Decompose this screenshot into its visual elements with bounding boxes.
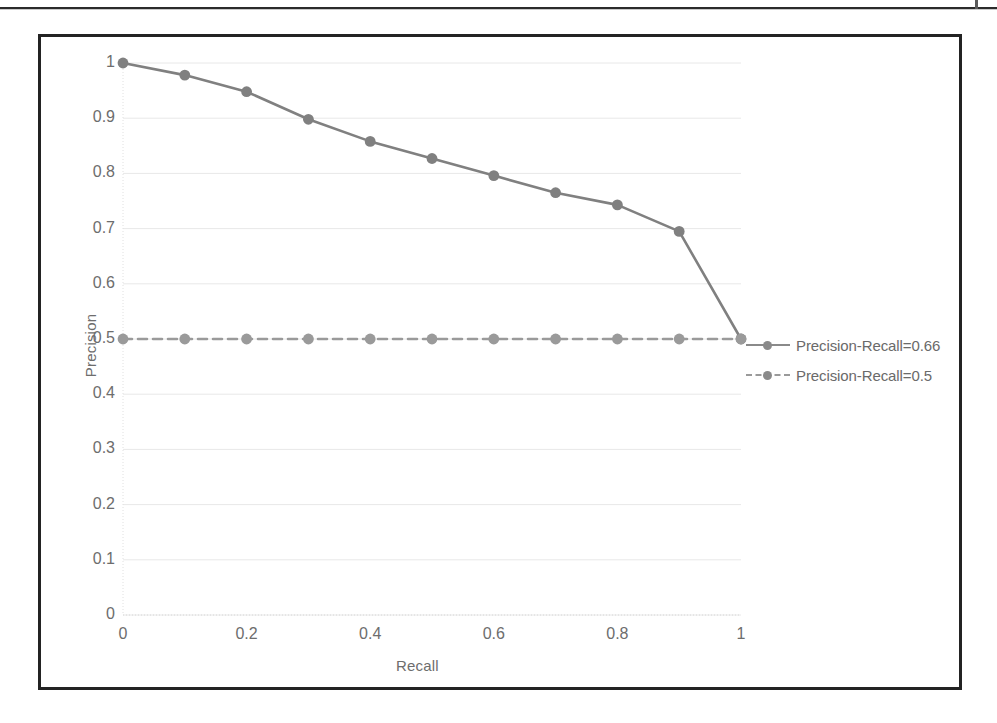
y-tick-label: 0.6 <box>69 274 115 292</box>
legend-swatch-dashed <box>746 368 790 382</box>
x-tick-label: 0.2 <box>217 625 277 643</box>
y-tick-label: 0.3 <box>69 439 115 457</box>
x-tick-label: 0.8 <box>587 625 647 643</box>
plot-stage: 00.10.20.30.40.50.60.70.80.91 00.20.40.6… <box>41 37 959 687</box>
x-axis-title: Recall <box>396 657 439 674</box>
legend-marker-circle-icon <box>763 371 772 380</box>
legend-label-series-1: Precision-Recall=0.66 <box>796 337 940 354</box>
y-tick-label: 1 <box>69 53 115 71</box>
legend-label-series-2: Precision-Recall=0.5 <box>796 367 932 384</box>
x-tick-label: 0 <box>93 625 153 643</box>
y-tick-label: 0.4 <box>69 384 115 402</box>
scan-artifact-corner <box>975 0 978 9</box>
x-tick-label: 0.6 <box>464 625 524 643</box>
x-tick-label: 1 <box>711 625 771 643</box>
y-axis-title: Precision <box>82 314 99 378</box>
y-tick-label: 0.7 <box>69 219 115 237</box>
x-tick-label: 0.4 <box>340 625 400 643</box>
y-tick-label: 0.1 <box>69 550 115 568</box>
chart-legend: Precision-Recall=0.66 Precision-Recall=0… <box>746 330 961 390</box>
legend-item-series-2[interactable]: Precision-Recall=0.5 <box>746 360 961 390</box>
legend-item-series-1[interactable]: Precision-Recall=0.66 <box>746 330 961 360</box>
chart-frame: 00.10.20.30.40.50.60.70.80.91 00.20.40.6… <box>38 34 962 690</box>
y-tick-label: 0.9 <box>69 108 115 126</box>
legend-swatch-solid <box>746 338 790 352</box>
x-axis-tick-labels: 00.20.40.60.81 <box>41 625 959 649</box>
legend-marker-circle-icon <box>763 341 772 350</box>
page-header-rule-shadow <box>0 9 997 10</box>
y-tick-label: 0.8 <box>69 163 115 181</box>
y-tick-label: 0 <box>69 605 115 623</box>
y-tick-label: 0.2 <box>69 495 115 513</box>
